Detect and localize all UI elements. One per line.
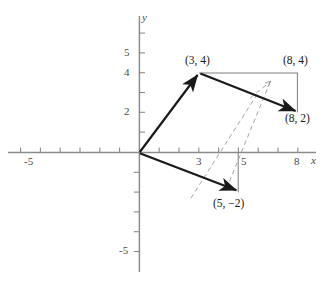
annotation-point-8-2: (8, 2) <box>285 113 310 125</box>
y-tick-label-2: 2 <box>124 106 130 117</box>
x-axis <box>8 148 316 153</box>
coordinate-plot <box>0 0 335 286</box>
x-tick-label-5: 5 <box>241 156 247 167</box>
y-tick-label-5: 5 <box>124 47 130 58</box>
dashed-guides <box>191 81 271 198</box>
guide-lines <box>199 73 298 192</box>
y-tick-label-neg5: -5 <box>119 245 128 256</box>
x-tick-label-neg5: -5 <box>24 156 33 167</box>
y-tick-label-4: 4 <box>124 67 130 78</box>
dashed-guide-left <box>191 91 259 198</box>
figure-container: -5 3 5 8 5 4 2 -5 x y (3, 4) (8, 4) (8, … <box>0 0 335 286</box>
y-axis <box>134 16 145 272</box>
dashed-guide-right <box>230 82 271 181</box>
vector-to-5-neg2 <box>140 153 237 190</box>
x-tick-label-3: 3 <box>196 156 202 167</box>
vectors <box>140 74 296 191</box>
vector-to-3-4 <box>140 75 198 152</box>
x-tick-label-8: 8 <box>294 156 300 167</box>
vector-3-4-to-8-2 <box>200 74 295 111</box>
annotation-point-8-4: (8, 4) <box>283 55 308 67</box>
y-axis-label: y <box>142 12 147 23</box>
x-axis-label: x <box>311 155 316 166</box>
annotation-point-5-neg2: (5, −2) <box>213 198 244 210</box>
annotation-point-3-4: (3, 4) <box>185 55 210 67</box>
